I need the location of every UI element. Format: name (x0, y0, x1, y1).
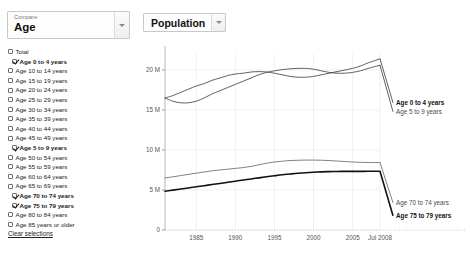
facet-label: Total (16, 47, 29, 57)
facet-label: Age 15 to 19 years (16, 76, 68, 86)
facet-row[interactable]: Age 0 to 4 years (8, 57, 132, 67)
compare-value: Age (14, 21, 36, 34)
series-line[interactable] (165, 59, 380, 98)
facet-row[interactable]: Total (8, 47, 132, 57)
y-tick-label: 5 M (150, 186, 161, 193)
facet-row[interactable]: Age 50 to 54 years (8, 153, 132, 163)
checkbox-icon[interactable] (8, 116, 13, 121)
line-chart[interactable]: 05 M10 M15 M20 M 19851990199520002005Jul… (136, 40, 470, 260)
checkbox-icon[interactable] (8, 126, 13, 131)
facet-label: Age 45 to 49 years (16, 133, 68, 143)
y-axis-ticks: 05 M10 M15 M20 M (146, 66, 165, 233)
facet-row[interactable]: Age 20 to 24 years (8, 85, 132, 95)
facet-label: Age 20 to 24 years (16, 85, 68, 95)
facet-row[interactable]: Age 10 to 14 years (8, 66, 132, 76)
x-tick-label: 2005 (346, 234, 361, 241)
chart-gridlines (165, 54, 380, 230)
facet-label: Age 65 to 69 years (16, 181, 68, 191)
facet-label: Age 50 to 54 years (16, 153, 68, 163)
facet-row[interactable]: Age 55 to 59 years (8, 162, 132, 172)
checkbox-icon[interactable] (8, 155, 13, 160)
facet-label: Age 35 to 39 years (16, 114, 68, 124)
x-tick-label: 2000 (307, 234, 322, 241)
facet-row[interactable]: Age 85 years or older (8, 220, 132, 230)
facet-row[interactable]: Age 65 to 69 years (8, 181, 132, 191)
facet-label: Age 55 to 59 years (16, 162, 68, 172)
y-tick-label: 10 M (146, 146, 160, 153)
facet-row[interactable]: Age 45 to 49 years (8, 133, 132, 143)
checkbox-icon[interactable] (8, 49, 13, 54)
chart-svg: 05 M10 M15 M20 M 19851990199520002005Jul… (136, 40, 470, 260)
facet-label: Age 60 to 64 years (16, 172, 68, 182)
facet-row[interactable]: Age 5 to 9 years (8, 143, 132, 153)
series-line[interactable] (165, 171, 380, 191)
checkbox-checked-icon[interactable] (12, 193, 17, 198)
facet-label: Age 40 to 44 years (16, 124, 68, 134)
y-tick-label: 15 M (146, 106, 160, 113)
facet-label: Age 75 to 79 years (20, 201, 74, 211)
chevron-down-icon[interactable] (114, 12, 129, 38)
metric-select[interactable]: Population (143, 13, 226, 32)
checkbox-checked-icon[interactable] (12, 145, 17, 150)
facet-label: Age 25 to 29 years (16, 95, 68, 105)
facet-label: Age 70 to 74 years (20, 191, 74, 201)
facet-row[interactable]: Age 70 to 74 years (8, 191, 132, 201)
facet-row[interactable]: Age 40 to 44 years (8, 124, 132, 134)
checkbox-icon[interactable] (8, 164, 13, 169)
checkbox-checked-icon[interactable] (12, 59, 17, 64)
checkbox-icon[interactable] (8, 68, 13, 73)
checkbox-icon[interactable] (8, 136, 13, 141)
series-label: Age 5 to 9 years (396, 108, 442, 116)
facet-row[interactable]: Age 15 to 19 years (8, 76, 132, 86)
checkbox-icon[interactable] (8, 222, 13, 227)
facet-sidebar: Compare Age TotalAge 0 to 4 yearsAge 10 … (0, 0, 136, 260)
checkbox-icon[interactable] (8, 107, 13, 112)
y-tick-label: 20 M (146, 66, 160, 73)
facet-row[interactable]: Age 30 to 34 years (8, 105, 132, 115)
x-tick-label: 1995 (267, 234, 282, 241)
facet-row[interactable]: Age 60 to 64 years (8, 172, 132, 182)
facet-label: Age 85 years or older (16, 220, 75, 230)
x-tick-label: 1990 (228, 234, 243, 241)
checkbox-icon[interactable] (8, 184, 13, 189)
clear-selections-link[interactable]: Clear selections (8, 230, 53, 237)
checkbox-icon[interactable] (8, 88, 13, 93)
checkbox-icon[interactable] (8, 78, 13, 83)
series-label: Age 70 to 74 years (396, 199, 449, 207)
metric-value: Population (144, 14, 211, 31)
chart-series (165, 59, 380, 191)
facet-row[interactable]: Age 80 to 84 years (8, 210, 132, 220)
facet-label: Age 30 to 34 years (16, 105, 68, 115)
facet-label: Age 0 to 4 years (20, 57, 67, 67)
checkbox-checked-icon[interactable] (12, 203, 17, 208)
facet-row[interactable]: Age 75 to 79 years (8, 201, 132, 211)
public-data-explorer: Compare Age TotalAge 0 to 4 yearsAge 10 … (0, 0, 470, 260)
facet-checkbox-list: TotalAge 0 to 4 yearsAge 10 to 14 yearsA… (8, 47, 132, 229)
series-labels: Age 0 to 4 yearsAge 5 to 9 yearsAge 70 t… (380, 59, 452, 220)
x-tick-label: Jul 2008 (368, 234, 392, 241)
facet-row[interactable]: Age 35 to 39 years (8, 114, 132, 124)
checkbox-icon[interactable] (8, 174, 13, 179)
series-line[interactable] (165, 65, 380, 103)
facet-row[interactable]: Age 25 to 29 years (8, 95, 132, 105)
x-tick-label: 1985 (189, 234, 204, 241)
facet-label: Age 5 to 9 years (20, 143, 67, 153)
facet-label: Age 80 to 84 years (16, 210, 68, 220)
compare-caption: Compare (14, 14, 37, 20)
compare-dimension-select[interactable]: Compare Age (7, 11, 130, 39)
chevron-down-icon[interactable] (211, 14, 225, 31)
y-tick-label: 0 (156, 226, 160, 233)
x-axis-ticks: 19851990199520002005Jul 2008 (189, 234, 392, 241)
checkbox-icon[interactable] (8, 97, 13, 102)
series-label: Age 0 to 4 years (396, 99, 445, 107)
chart-panel: Population 05 M10 M15 M20 M 198519901995… (136, 0, 470, 260)
checkbox-icon[interactable] (8, 212, 13, 217)
series-label: Age 75 to 79 years (396, 212, 452, 220)
facet-label: Age 10 to 14 years (16, 66, 68, 76)
